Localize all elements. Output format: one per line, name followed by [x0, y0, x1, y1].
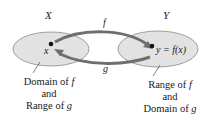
caption-right-line1: Range of f: [134, 79, 206, 91]
caption-right-line2: and: [134, 91, 206, 103]
arrow-f-label: f: [103, 17, 107, 28]
set-y-label: Y: [163, 9, 171, 21]
set-x-label: X: [44, 9, 53, 21]
caption-right: Range of f and Domain of g: [134, 79, 206, 115]
point-y-label: y = f(x): [155, 44, 187, 56]
arrow-g-label: g: [103, 63, 108, 74]
caption-right-line3: Domain of g: [134, 103, 206, 115]
point-x: [49, 42, 54, 47]
point-x-label: x: [43, 45, 49, 56]
caption-left-line3: Range of g: [14, 100, 84, 112]
caption-left-line2: and: [14, 88, 84, 100]
caption-left: Domain of f and Range of g: [14, 76, 84, 112]
caption-left-line1: Domain of f: [14, 76, 84, 88]
point-y: [150, 44, 155, 49]
